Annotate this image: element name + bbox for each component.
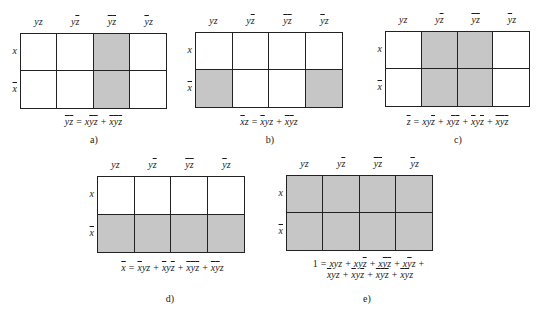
kmap-cell bbox=[493, 32, 529, 69]
column-header: yz bbox=[232, 15, 269, 26]
term: xyz bbox=[162, 262, 175, 273]
kmap-cell bbox=[57, 34, 93, 71]
variable: z bbox=[305, 158, 309, 169]
variable: x bbox=[378, 81, 382, 92]
column-header: yz bbox=[306, 15, 343, 26]
kmap-cell bbox=[57, 71, 93, 108]
variable: z bbox=[118, 116, 122, 127]
row-header: x bbox=[370, 81, 382, 92]
column-header: yz bbox=[94, 16, 131, 27]
term: yz bbox=[71, 16, 79, 27]
term: xyz bbox=[285, 116, 298, 127]
kmap-cell bbox=[269, 70, 306, 107]
caption: a) bbox=[79, 134, 109, 145]
term: x bbox=[378, 43, 382, 54]
term: x bbox=[279, 187, 283, 198]
kmap-cell bbox=[306, 33, 343, 70]
operator: + bbox=[150, 262, 162, 273]
kmap-cell-shaded bbox=[323, 176, 359, 213]
kmap-cell bbox=[196, 33, 233, 70]
term: yz bbox=[410, 158, 418, 169]
operator: + bbox=[389, 269, 401, 280]
caption: e) bbox=[352, 293, 382, 304]
kmap-cell-shaded bbox=[208, 215, 245, 253]
row-header: x bbox=[271, 187, 283, 198]
term: x bbox=[378, 81, 382, 92]
variable: z bbox=[341, 158, 345, 169]
term: xyz bbox=[137, 262, 150, 273]
term: yz bbox=[471, 14, 479, 25]
term: yz bbox=[283, 15, 291, 26]
kmap-cell-shaded bbox=[458, 69, 494, 106]
formula: x=xyz+xyz+xyz+xyz bbox=[85, 262, 260, 273]
variable: z bbox=[407, 116, 411, 127]
term: z bbox=[407, 116, 411, 127]
term: yz bbox=[246, 15, 254, 26]
variable: x bbox=[90, 227, 94, 238]
formula-line: 1=xyz+xyz+xyz+xyz+ bbox=[290, 258, 450, 269]
variable: z bbox=[149, 16, 153, 27]
row-header: x bbox=[180, 44, 192, 55]
kmap-cell bbox=[269, 33, 306, 70]
formula: z=xyz+xyz+xyz+xyz bbox=[370, 116, 538, 127]
operator: + bbox=[199, 262, 211, 273]
kmap-cell-shaded bbox=[458, 32, 494, 69]
kmap-cell bbox=[98, 177, 135, 215]
variable: z bbox=[39, 16, 43, 27]
variable: z bbox=[251, 15, 255, 26]
term: yz bbox=[144, 16, 152, 27]
term: yz bbox=[209, 15, 217, 26]
kmap-cell-shaded bbox=[396, 176, 432, 213]
term: xyz bbox=[471, 116, 484, 127]
variable: z bbox=[415, 158, 419, 169]
variable: z bbox=[214, 15, 218, 26]
formula-line: x=xyz+xyz+xyz+xyz bbox=[85, 262, 260, 273]
operator: + bbox=[391, 258, 403, 269]
kmap-cell-shaded bbox=[396, 213, 432, 250]
operator: = bbox=[249, 116, 261, 127]
variable: z bbox=[288, 15, 292, 26]
term: xyz bbox=[376, 269, 389, 280]
kmap-cell-shaded bbox=[135, 215, 172, 253]
kmap-cell bbox=[386, 32, 422, 69]
term: x bbox=[188, 44, 192, 55]
variable: z bbox=[294, 116, 298, 127]
column-header: yz bbox=[286, 158, 323, 169]
column-header: yz bbox=[385, 14, 421, 25]
term: x bbox=[13, 45, 17, 56]
term: xyz bbox=[351, 269, 364, 280]
column-header: yz bbox=[208, 159, 245, 170]
term: yz bbox=[108, 16, 116, 27]
kmap-grid bbox=[385, 31, 530, 107]
term: x bbox=[90, 188, 94, 199]
operator: + bbox=[273, 116, 285, 127]
operator: = bbox=[126, 262, 138, 273]
row-header: x bbox=[370, 43, 382, 54]
kmap-cell bbox=[130, 34, 166, 71]
term: x bbox=[90, 227, 94, 238]
operator: = bbox=[318, 258, 330, 269]
kmap-cell bbox=[493, 69, 529, 106]
operator: + bbox=[367, 258, 379, 269]
variable: z bbox=[409, 269, 413, 280]
variable: z bbox=[190, 159, 194, 170]
row-header: x bbox=[5, 83, 17, 94]
kmap-cell-shaded bbox=[287, 176, 323, 213]
variable: z bbox=[220, 262, 224, 273]
column-header: yz bbox=[494, 14, 530, 25]
kmap-cell-shaded bbox=[306, 70, 343, 107]
column-header: yz bbox=[130, 16, 167, 27]
kmap-cell bbox=[208, 177, 245, 215]
kmap-cell-shaded bbox=[94, 71, 130, 108]
kmap-cell-shaded bbox=[287, 213, 323, 250]
term: yz bbox=[111, 159, 119, 170]
variable: x bbox=[279, 225, 283, 236]
variable: z bbox=[153, 159, 157, 170]
term: x bbox=[279, 225, 283, 236]
kmap-grid bbox=[20, 33, 167, 109]
kmap-cell bbox=[386, 69, 422, 106]
kmap-cell-shaded bbox=[422, 69, 458, 106]
term: yz bbox=[399, 14, 407, 25]
kmap-cell bbox=[21, 34, 57, 71]
column-header: yz bbox=[269, 15, 306, 26]
